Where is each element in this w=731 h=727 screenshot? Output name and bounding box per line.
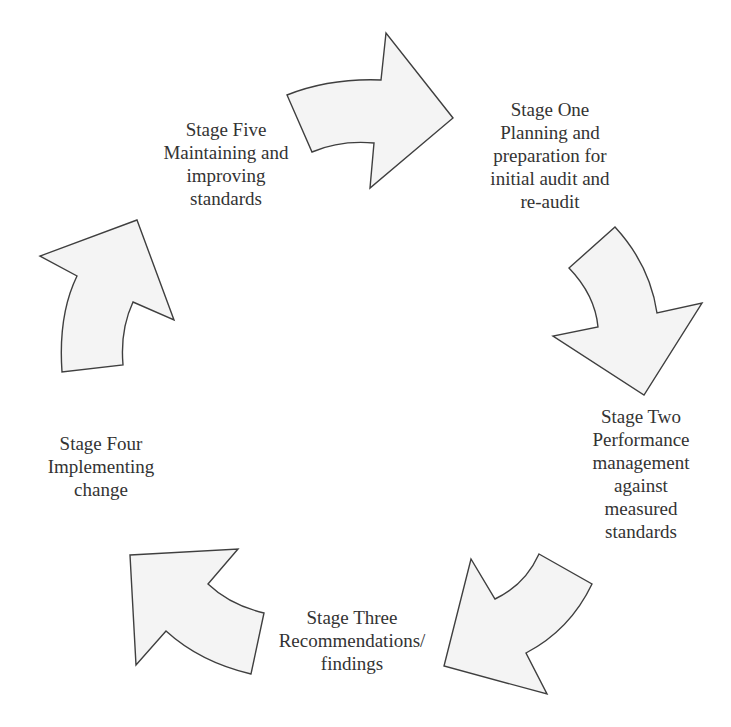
stage-four-line: change xyxy=(36,478,166,501)
stage-five-title: Stage Five xyxy=(146,118,306,141)
stage-two-line: measured xyxy=(566,497,716,520)
stage-four-label: Stage Four Implementing change xyxy=(36,432,166,501)
stage-three-line: Recommendations/ xyxy=(262,629,442,652)
stage-one-label: Stage One Planning and preparation for i… xyxy=(465,98,635,213)
stage-five-label: Stage Five Maintaining and improving sta… xyxy=(146,118,306,210)
stage-three-label: Stage Three Recommendations/ findings xyxy=(262,606,442,675)
stage-four-line: Implementing xyxy=(36,455,166,478)
stage-one-line: Planning and xyxy=(465,121,635,144)
arrow-five-to-one-icon xyxy=(287,33,453,188)
stage-two-line: Performance xyxy=(566,428,716,451)
arrow-four-to-five-icon xyxy=(40,220,174,372)
stage-one-line: initial audit and xyxy=(465,167,635,190)
stage-one-title: Stage One xyxy=(465,98,635,121)
stage-four-title: Stage Four xyxy=(36,432,166,455)
stage-five-line: standards xyxy=(146,187,306,210)
stage-three-line: findings xyxy=(262,652,442,675)
arrow-three-to-four-icon xyxy=(130,549,264,674)
stage-five-line: improving xyxy=(146,164,306,187)
stage-two-line: management xyxy=(566,451,716,474)
arrow-one-to-two-icon xyxy=(553,227,702,395)
stage-five-line: Maintaining and xyxy=(146,141,306,164)
stage-one-line: preparation for xyxy=(465,144,635,167)
stage-two-title: Stage Two xyxy=(566,405,716,428)
stage-one-line: re-audit xyxy=(465,190,635,213)
stage-two-line: standards xyxy=(566,520,716,543)
stage-three-title: Stage Three xyxy=(262,606,442,629)
stage-two-line: against xyxy=(566,474,716,497)
stage-two-label: Stage Two Performance management against… xyxy=(566,405,716,543)
arrow-two-to-three-icon xyxy=(444,554,592,694)
